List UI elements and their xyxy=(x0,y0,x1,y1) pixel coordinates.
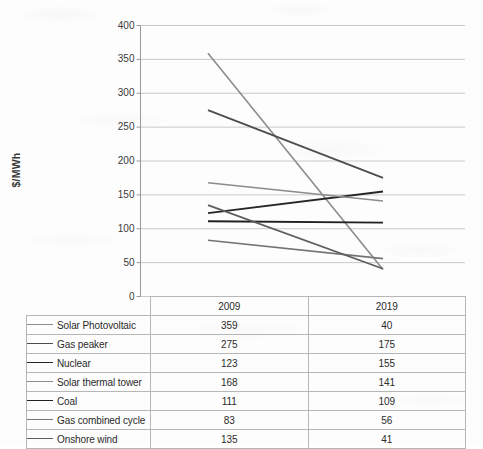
legend-line-icon xyxy=(27,438,53,439)
y-tick-label: 50 xyxy=(101,257,135,268)
table-row: Onshore wind13541 xyxy=(27,430,466,449)
value-cell-2009: 135 xyxy=(151,430,309,449)
legend-line-icon xyxy=(27,343,53,344)
value-cell-2019: 155 xyxy=(308,354,466,373)
legend-cell: Coal xyxy=(27,392,151,411)
value-cell-2019: 40 xyxy=(308,316,466,335)
y-tick-label: 350 xyxy=(101,53,135,64)
legend-cell: Gas combined cycle xyxy=(27,411,151,430)
legend-label: Solar Photovoltaic xyxy=(57,320,136,331)
series-line-4 xyxy=(208,221,383,222)
legend-cell: Onshore wind xyxy=(27,430,151,449)
table-row: Solar Photovoltaic35940 xyxy=(27,316,466,335)
table-row: Coal111109 xyxy=(27,392,466,411)
legend-line-icon xyxy=(27,362,53,363)
table-header: 2009 2019 xyxy=(27,297,466,316)
legend-label: Gas peaker xyxy=(57,339,108,350)
series-line-3 xyxy=(208,183,383,201)
value-cell-2009: 123 xyxy=(151,354,309,373)
legend-line-icon xyxy=(27,400,53,401)
y-tick-label: 400 xyxy=(101,20,135,31)
legend-line-icon xyxy=(27,381,53,382)
column-header-2009: 2009 xyxy=(151,297,309,316)
legend-cell: Solar Photovoltaic xyxy=(27,316,151,335)
legend-line-icon xyxy=(27,324,53,325)
table-header-row: 2009 2019 xyxy=(27,297,466,316)
value-cell-2019: 109 xyxy=(308,392,466,411)
legend-label: Gas combined cycle xyxy=(57,415,145,426)
y-tick-label: 150 xyxy=(101,189,135,200)
legend-label: Solar thermal tower xyxy=(57,377,142,388)
value-cell-2009: 111 xyxy=(151,392,309,411)
value-cell-2019: 175 xyxy=(308,335,466,354)
table-row: Solar thermal tower168141 xyxy=(27,373,466,392)
legend-label: Onshore wind xyxy=(57,434,118,445)
table-row: Nuclear123155 xyxy=(27,354,466,373)
y-tick-label: 250 xyxy=(101,121,135,132)
value-cell-2019: 141 xyxy=(308,373,466,392)
table-corner-cell xyxy=(27,297,151,316)
legend-label: Coal xyxy=(57,396,77,407)
value-cell-2019: 41 xyxy=(308,430,466,449)
line-chart-svg xyxy=(0,0,483,300)
legend-label: Nuclear xyxy=(57,358,91,369)
value-cell-2009: 83 xyxy=(151,411,309,430)
value-cell-2009: 359 xyxy=(151,316,309,335)
legend-line-icon xyxy=(27,419,53,420)
series-line-5 xyxy=(208,240,383,258)
legend-cell: Nuclear xyxy=(27,354,151,373)
y-tick-label: 100 xyxy=(101,223,135,234)
table-row: Gas peaker275175 xyxy=(27,335,466,354)
y-tick-label: 300 xyxy=(101,87,135,98)
value-cell-2009: 275 xyxy=(151,335,309,354)
legend-cell: Solar thermal tower xyxy=(27,373,151,392)
table-row: Gas combined cycle8356 xyxy=(27,411,466,430)
y-tick-label: 200 xyxy=(101,155,135,166)
table-body: Solar Photovoltaic35940Gas peaker275175N… xyxy=(27,316,466,449)
column-header-2019: 2019 xyxy=(308,297,466,316)
value-cell-2019: 56 xyxy=(308,411,466,430)
chart-data-table: 2009 2019 Solar Photovoltaic35940Gas pea… xyxy=(26,296,466,449)
value-cell-2009: 168 xyxy=(151,373,309,392)
series-line-1 xyxy=(208,110,383,178)
chart-plot-region: $/MWh 050100150200250300350400 xyxy=(0,0,483,300)
legend-cell: Gas peaker xyxy=(27,335,151,354)
